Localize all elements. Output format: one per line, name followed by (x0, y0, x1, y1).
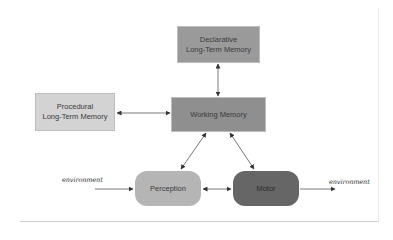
edge-working-motor (230, 133, 254, 169)
environment-input-label: environment (62, 176, 103, 184)
edge-working-perception (181, 133, 206, 169)
node-perception-label: Perception (150, 184, 186, 194)
node-procedural-memory: Procedural Long-Term Memory (35, 93, 115, 131)
node-procedural-line1: Procedural (42, 102, 107, 112)
node-working-label: Working Memory (190, 110, 247, 120)
node-declarative-memory: Declarative Long-Term Memory (177, 26, 260, 63)
node-motor-label: Motor (256, 184, 275, 194)
node-motor: Motor (233, 171, 299, 206)
node-declarative-line1: Declarative (186, 35, 251, 45)
node-declarative-line2: Long-Term Memory (186, 45, 251, 55)
node-perception: Perception (135, 171, 201, 206)
node-procedural-line2: Long-Term Memory (42, 112, 107, 122)
environment-output-label: environment (329, 178, 370, 186)
node-working-memory: Working Memory (171, 97, 266, 132)
